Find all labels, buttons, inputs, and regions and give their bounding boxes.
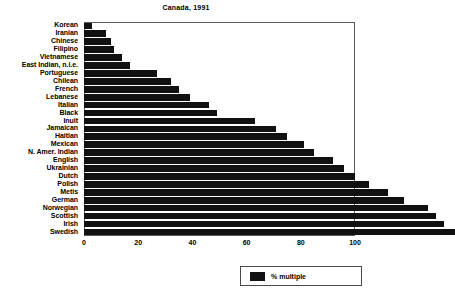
- bar-row: [84, 229, 355, 236]
- category-label-portuguese: Portuguese: [40, 69, 78, 77]
- category-label-metis: Metis: [60, 188, 78, 196]
- category-label-black: Black: [60, 109, 78, 117]
- category-label-mexican: Mexican: [51, 140, 78, 148]
- bar-metis: [84, 189, 388, 196]
- x-tick-40: 40: [188, 238, 196, 247]
- category-label-filipino: Filipino: [54, 45, 78, 53]
- bar-row: [84, 173, 355, 180]
- bar-row: [84, 133, 355, 140]
- bar-row: [84, 213, 355, 220]
- category-label-dutch: Dutch: [58, 172, 78, 180]
- bar-row: [84, 181, 355, 188]
- bar-row: [84, 141, 355, 148]
- x-tick-20: 20: [134, 238, 142, 247]
- bars-layer: [84, 22, 355, 236]
- category-label-vietnamese: Vietnamese: [40, 53, 78, 61]
- x-tick-80: 80: [297, 238, 305, 247]
- bar-norwegian: [84, 205, 428, 212]
- category-label-polish: Polish: [57, 180, 78, 188]
- bar-dutch: [84, 173, 355, 180]
- bar-row: [84, 205, 355, 212]
- bar-portuguese: [84, 70, 157, 77]
- category-label-irish: Irish: [63, 220, 78, 228]
- category-label-haitian: Haitian: [55, 132, 78, 140]
- category-label-lebanese: Lebanese: [46, 93, 78, 101]
- bar-row: [84, 197, 355, 204]
- category-label-italian: Italian: [58, 101, 78, 109]
- bar-french: [84, 86, 179, 93]
- x-tick-0: 0: [82, 238, 86, 247]
- bar-english: [84, 157, 333, 164]
- legend-swatch-multiple: [250, 272, 265, 281]
- bar-haitian: [84, 133, 287, 140]
- bar-polish: [84, 181, 369, 188]
- bar-row: [84, 86, 355, 93]
- bar-inuit: [84, 118, 255, 125]
- bar-row: [84, 126, 355, 133]
- bar-row: [84, 46, 355, 53]
- bar-row: [84, 38, 355, 45]
- category-label-korean: Korean: [54, 21, 78, 29]
- bar-lebanese: [84, 94, 190, 101]
- bar-row: [84, 221, 355, 228]
- bar-chinese: [84, 38, 111, 45]
- bar-row: [84, 149, 355, 156]
- bar-black: [84, 110, 217, 117]
- category-label-scottish: Scottish: [51, 212, 78, 220]
- category-label-swedish: Swedish: [50, 228, 78, 236]
- bar-filipino: [84, 46, 114, 53]
- bar-vietnamese: [84, 54, 122, 61]
- bar-korean: [84, 23, 92, 30]
- bar-iranian: [84, 30, 106, 37]
- bar-row: [84, 118, 355, 125]
- category-axis-labels: KoreanIranianChineseFilipinoVietnameseEa…: [0, 22, 81, 236]
- bar-row: [84, 23, 355, 30]
- bar-n-amer-indian: [84, 149, 314, 156]
- category-label-jamaican: Jamaican: [46, 124, 78, 132]
- bar-scottish: [84, 213, 436, 220]
- category-label-iranian: Iranian: [55, 29, 78, 37]
- category-label-n-amer-indian: N. Amer. Indian: [28, 148, 78, 156]
- bar-ukrainian: [84, 165, 344, 172]
- bar-row: [84, 165, 355, 172]
- bar-row: [84, 30, 355, 37]
- bar-italian: [84, 102, 209, 109]
- category-label-east-indian-n-i-e: East Indian, n.i.e.: [22, 61, 78, 69]
- category-label-inuit: Inuit: [63, 117, 78, 125]
- value-axis-labels: 020406080100: [84, 238, 355, 250]
- bar-row: [84, 102, 355, 109]
- bar-row: [84, 189, 355, 196]
- category-label-norwegian: Norwegian: [43, 204, 78, 212]
- category-label-chinese: Chinese: [51, 37, 78, 45]
- bar-row: [84, 78, 355, 85]
- category-label-english: English: [53, 156, 78, 164]
- chart-legend: % multiple: [240, 266, 362, 286]
- chart-title: Canada, 1991: [0, 3, 372, 12]
- bar-jamaican: [84, 126, 276, 133]
- bar-irish: [84, 221, 444, 228]
- bar-swedish: [84, 229, 455, 236]
- x-tick-100: 100: [349, 238, 361, 247]
- x-tick-60: 60: [243, 238, 251, 247]
- category-label-french: French: [55, 85, 78, 93]
- bar-row: [84, 94, 355, 101]
- bar-row: [84, 54, 355, 61]
- bar-mexican: [84, 141, 304, 148]
- bar-row: [84, 62, 355, 69]
- legend-label-multiple: % multiple: [271, 272, 306, 281]
- bar-row: [84, 157, 355, 164]
- bar-german: [84, 197, 404, 204]
- category-label-german: German: [52, 196, 78, 204]
- category-label-chilean: Chilean: [53, 77, 78, 85]
- bar-east-indian-n-i-e: [84, 62, 130, 69]
- category-label-ukrainian: Ukrainian: [47, 164, 78, 172]
- bar-chilean: [84, 78, 171, 85]
- bar-row: [84, 70, 355, 77]
- bar-row: [84, 110, 355, 117]
